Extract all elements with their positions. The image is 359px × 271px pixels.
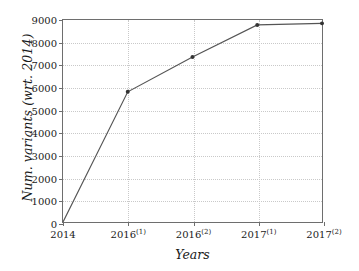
data-point-marker <box>255 23 259 27</box>
x-tick-label: 2016(1) <box>111 229 146 240</box>
x-tick-label: 2017(1) <box>241 229 276 240</box>
y-tick-label: 7000 <box>32 60 57 71</box>
y-tick-label: 5000 <box>32 105 57 116</box>
x-tick-mark <box>128 222 129 226</box>
plot-area: 0100020003000400050006000700080009000 20… <box>62 19 323 223</box>
x-tick-label: 2016(2) <box>176 229 211 240</box>
y-tick-label: 3000 <box>32 151 57 162</box>
series-polyline <box>63 23 322 222</box>
x-tick-mark <box>194 222 195 226</box>
y-tick-label: 2000 <box>32 173 57 184</box>
data-point-marker <box>126 90 130 94</box>
x-tick-label: 2014 <box>50 229 75 240</box>
y-tick-label: 8000 <box>32 37 57 48</box>
data-series-line <box>63 20 322 222</box>
data-point-marker <box>191 55 195 59</box>
x-tick-mark <box>63 222 64 226</box>
x-tick-mark <box>324 222 325 226</box>
x-axis-title: Years <box>62 247 323 262</box>
y-tick-label: 0 <box>51 219 57 230</box>
series-markers <box>126 21 324 93</box>
data-point-marker <box>320 21 324 25</box>
y-tick-label: 1000 <box>32 196 57 207</box>
chart-figure: Num. variants (wrt. 2014) 01000200030004… <box>0 0 359 271</box>
y-tick-label: 9000 <box>32 15 57 26</box>
x-tick-mark <box>259 222 260 226</box>
x-tick-label: 2017(2) <box>306 229 341 240</box>
y-tick-label: 6000 <box>32 83 57 94</box>
y-tick-label: 4000 <box>32 128 57 139</box>
